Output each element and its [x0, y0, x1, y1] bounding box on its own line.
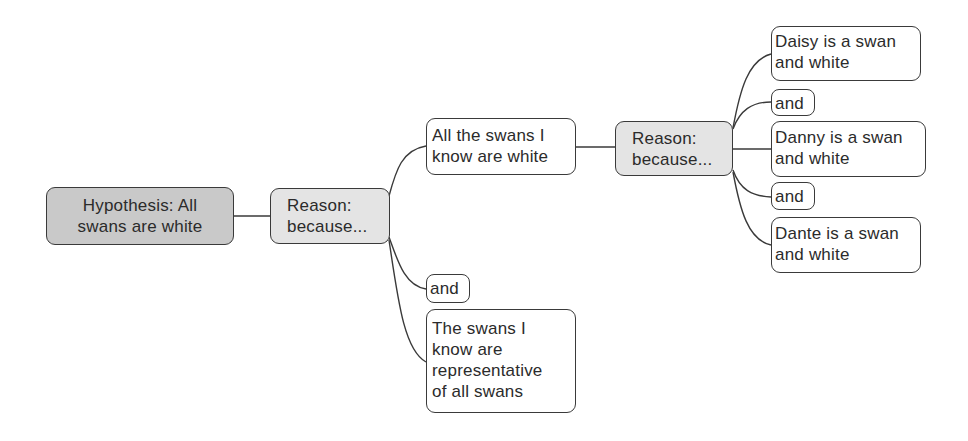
- hypothesis-label: Hypothesis: All swans are white: [52, 195, 228, 237]
- and-node-2: and: [771, 89, 815, 116]
- reason-node-2: Reason: because...: [615, 121, 733, 176]
- claim-danny-label: Danny is a swan and white: [775, 127, 922, 169]
- connector-reason1-claim-representative: [389, 240, 426, 362]
- and-node-1: and: [426, 274, 470, 303]
- claim-daisy-label: Daisy is a swan and white: [775, 31, 917, 73]
- claim-danny-node: Danny is a swan and white: [771, 121, 926, 177]
- reason-label-2: Reason: because...: [632, 128, 727, 170]
- connector-reason2-and2: [733, 102, 771, 129]
- claim-all-swans-known-node: All the swans I know are white: [426, 118, 576, 175]
- argument-map-diagram: Hypothesis: All swans are white Reason: …: [0, 0, 968, 441]
- connector-reason1-claim-all-swans: [389, 146, 426, 196]
- and-node-3: and: [771, 182, 815, 210]
- connector-reason2-dante: [733, 172, 771, 245]
- hypothesis-node: Hypothesis: All swans are white: [46, 187, 234, 245]
- claim-all-swans-known-label: All the swans I know are white: [432, 125, 570, 167]
- reason-label-1: Reason: because...: [287, 195, 384, 237]
- claim-dante-label: Dante is a swan and white: [775, 223, 917, 265]
- claim-daisy-node: Daisy is a swan and white: [771, 26, 921, 81]
- and-label-3: and: [775, 186, 811, 207]
- claim-representative-label: The swans I know are representative of a…: [432, 318, 570, 402]
- connector-reason1-and1: [389, 237, 426, 289]
- claim-dante-node: Dante is a swan and white: [771, 217, 921, 273]
- and-label-2: and: [775, 93, 811, 114]
- claim-representative-node: The swans I know are representative of a…: [426, 309, 576, 413]
- and-label-1: and: [430, 278, 466, 299]
- reason-node-1: Reason: because...: [270, 188, 390, 244]
- connector-reason2-and3: [733, 170, 771, 197]
